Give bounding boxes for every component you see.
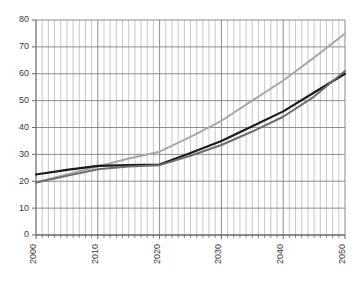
x-axis-tick-marks bbox=[36, 235, 345, 239]
y-tick-label: 30 bbox=[19, 149, 29, 159]
y-axis-tick-marks bbox=[32, 20, 36, 235]
line-chart: 01020304050607080 2000201020202030204020… bbox=[0, 0, 361, 290]
chart-canvas: 01020304050607080 2000201020202030204020… bbox=[0, 0, 361, 290]
x-tick-label: 2040 bbox=[275, 244, 285, 264]
y-tick-label: 70 bbox=[19, 41, 29, 51]
x-tick-label: 2050 bbox=[337, 244, 347, 264]
y-tick-label: 80 bbox=[19, 14, 29, 24]
x-tick-label: 2020 bbox=[152, 244, 162, 264]
y-axis-tick-labels: 01020304050607080 bbox=[19, 14, 29, 239]
x-tick-label: 2000 bbox=[28, 244, 38, 264]
x-axis-tick-labels: 200020102020203020402050 bbox=[28, 244, 347, 264]
y-tick-label: 0 bbox=[24, 229, 29, 239]
y-tick-label: 20 bbox=[19, 176, 29, 186]
y-tick-label: 10 bbox=[19, 203, 29, 213]
y-tick-label: 60 bbox=[19, 68, 29, 78]
x-tick-label: 2010 bbox=[90, 244, 100, 264]
x-tick-label: 2030 bbox=[213, 244, 223, 264]
y-tick-label: 40 bbox=[19, 122, 29, 132]
y-tick-label: 50 bbox=[19, 95, 29, 105]
